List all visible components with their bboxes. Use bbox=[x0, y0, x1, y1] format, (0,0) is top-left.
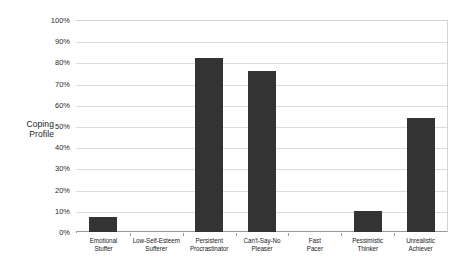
y-axis-tick-label: 50% bbox=[40, 122, 70, 131]
bar-slot bbox=[288, 20, 341, 232]
bar-slot bbox=[130, 20, 183, 232]
bar-slot bbox=[236, 20, 289, 232]
x-axis-category-labels: EmotionalStufferLow-Self-EsteemSuffererP… bbox=[77, 237, 447, 267]
y-axis-tick-label: 60% bbox=[40, 101, 70, 110]
x-axis-tick-mark bbox=[341, 233, 342, 236]
x-axis-category-label: UnrealisticAchiever bbox=[388, 237, 453, 253]
y-axis-tick-label: 30% bbox=[40, 164, 70, 173]
x-axis-tick-mark bbox=[236, 233, 237, 236]
x-axis-category-label-line: Unrealistic bbox=[388, 237, 453, 245]
bar-slot bbox=[341, 20, 394, 232]
bar[interactable] bbox=[89, 217, 117, 232]
coping-profile-bar-chart: Coping Profile 0%10%20%30%40%50%60%70%80… bbox=[0, 0, 472, 280]
y-axis-tick-label: 90% bbox=[40, 37, 70, 46]
bar[interactable] bbox=[354, 211, 382, 232]
y-axis-tick-labels: 0%10%20%30%40%50%60%70%80%90%100% bbox=[40, 0, 70, 280]
bar-slot bbox=[394, 20, 447, 232]
y-axis-tick-label: 0% bbox=[40, 228, 70, 237]
bar-slot bbox=[77, 20, 130, 232]
bars-layer bbox=[77, 20, 447, 232]
bar[interactable] bbox=[407, 118, 435, 232]
x-axis-tick-mark bbox=[288, 233, 289, 236]
bar[interactable] bbox=[195, 58, 223, 232]
y-axis-tick-label: 100% bbox=[40, 16, 70, 25]
bar-slot bbox=[183, 20, 236, 232]
y-axis-tick-label: 20% bbox=[40, 186, 70, 195]
x-axis-tick-mark bbox=[130, 233, 131, 236]
x-axis-category-label-line: Achiever bbox=[388, 245, 453, 253]
x-axis-tick-mark bbox=[183, 233, 184, 236]
bar[interactable] bbox=[248, 71, 276, 232]
x-axis-tick-mark bbox=[394, 233, 395, 236]
y-axis-tick-label: 70% bbox=[40, 80, 70, 89]
y-axis-tick-label: 80% bbox=[40, 58, 70, 67]
y-axis-tick-label: 10% bbox=[40, 207, 70, 216]
y-axis-tick-label: 40% bbox=[40, 143, 70, 152]
